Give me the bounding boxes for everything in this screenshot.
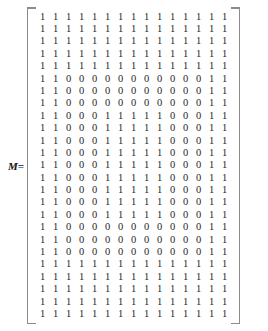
- matrix-cell: 1: [114, 184, 127, 196]
- matrix-cell: 0: [114, 97, 127, 109]
- matrix-cell: 0: [153, 234, 166, 246]
- matrix-cell: 1: [114, 60, 127, 72]
- matrix-cell: 1: [140, 209, 153, 221]
- matrix-cell: 1: [205, 271, 218, 283]
- matrix-cell: 0: [140, 97, 153, 109]
- matrix-cell: 1: [166, 296, 179, 308]
- matrix-cell: 1: [88, 283, 101, 295]
- matrix-cell: 1: [49, 308, 62, 320]
- matrix-cell: 0: [75, 196, 88, 208]
- matrix-cell: 1: [205, 209, 218, 221]
- matrix-cell: 1: [127, 283, 140, 295]
- matrix-cell: 0: [192, 209, 205, 221]
- matrix-cell: 1: [49, 122, 62, 134]
- matrix-row: 111111111111111: [36, 48, 231, 60]
- matrix-cell: 0: [88, 97, 101, 109]
- matrix-cell: 1: [101, 35, 114, 47]
- matrix-cell: 1: [153, 296, 166, 308]
- matrix-cell: 1: [218, 147, 231, 159]
- matrix-cell: 1: [49, 11, 62, 23]
- matrix-cell: 0: [75, 110, 88, 122]
- matrix-cell: 0: [75, 159, 88, 171]
- matrix-cell: 1: [101, 159, 114, 171]
- matrix-cell: 1: [36, 271, 49, 283]
- matrix-cell: 1: [49, 283, 62, 295]
- matrix-cell: 1: [127, 11, 140, 23]
- matrix-cell: 0: [62, 246, 75, 258]
- matrix-cell: 1: [153, 11, 166, 23]
- matrix-cell: 1: [205, 35, 218, 47]
- matrix-cell: 0: [88, 184, 101, 196]
- matrix-cell: 1: [75, 283, 88, 295]
- matrix-cell: 1: [179, 308, 192, 320]
- matrix-cell: 1: [49, 184, 62, 196]
- matrix-cell: 1: [179, 60, 192, 72]
- matrix-grid: 1111111111111111111111111111111111111111…: [36, 7, 231, 325]
- matrix-cell: 1: [75, 11, 88, 23]
- matrix-row: 110001111100011: [36, 110, 231, 122]
- matrix-cell: 0: [153, 97, 166, 109]
- matrix-cell: 1: [127, 60, 140, 72]
- matrix-cell: 1: [101, 196, 114, 208]
- matrix-cell: 1: [36, 135, 49, 147]
- matrix-cell: 0: [140, 221, 153, 233]
- matrix-cell: 0: [192, 135, 205, 147]
- matrix-cell: 1: [88, 308, 101, 320]
- matrix-cell: 1: [153, 271, 166, 283]
- matrix-cell: 0: [62, 234, 75, 246]
- matrix-cell: 1: [153, 184, 166, 196]
- matrix-cell: 1: [140, 271, 153, 283]
- matrix-cell: 0: [140, 234, 153, 246]
- matrix-cell: 0: [88, 196, 101, 208]
- matrix-cell: 1: [166, 308, 179, 320]
- matrix-cell: 1: [179, 11, 192, 23]
- matrix-cell: 1: [127, 147, 140, 159]
- matrix-cell: 1: [140, 135, 153, 147]
- matrix-cell: 1: [205, 172, 218, 184]
- matrix-cell: 0: [88, 209, 101, 221]
- matrix-cell: 0: [88, 110, 101, 122]
- matrix-cell: 0: [75, 184, 88, 196]
- matrix-cell: 1: [166, 48, 179, 60]
- matrix-cell: 1: [36, 283, 49, 295]
- matrix-cell: 0: [75, 73, 88, 85]
- matrix-cell: 1: [49, 60, 62, 72]
- matrix-cell: 1: [36, 147, 49, 159]
- matrix-cell: 1: [36, 35, 49, 47]
- matrix-cell: 1: [127, 110, 140, 122]
- matrix-cell: 0: [88, 122, 101, 134]
- matrix-cell: 0: [62, 159, 75, 171]
- matrix-cell: 1: [114, 283, 127, 295]
- matrix-cell: 1: [101, 172, 114, 184]
- matrix-cell: 1: [153, 147, 166, 159]
- matrix-cell: 1: [205, 147, 218, 159]
- matrix-cell: 1: [75, 35, 88, 47]
- matrix-cell: 1: [62, 60, 75, 72]
- matrix-cell: 1: [49, 73, 62, 85]
- matrix-cell: 1: [62, 48, 75, 60]
- matrix-cell: 0: [114, 85, 127, 97]
- matrix-cell: 1: [62, 23, 75, 35]
- matrix-cell: 1: [36, 159, 49, 171]
- matrix-cell: 0: [166, 196, 179, 208]
- matrix-cell: 1: [140, 159, 153, 171]
- matrix-cell: 1: [114, 11, 127, 23]
- matrix-cell: 1: [218, 11, 231, 23]
- matrix-cell: 1: [166, 35, 179, 47]
- matrix-cell: 1: [140, 35, 153, 47]
- matrix-cell: 1: [205, 135, 218, 147]
- matrix-cell: 1: [127, 196, 140, 208]
- matrix-bracketed-container: 1111111111111111111111111111111111111111…: [27, 7, 240, 325]
- matrix-cell: 0: [179, 209, 192, 221]
- matrix-row: 111111111111111: [36, 23, 231, 35]
- matrix-cell: 1: [140, 110, 153, 122]
- matrix-cell: 0: [62, 135, 75, 147]
- matrix-cell: 1: [36, 308, 49, 320]
- matrix-cell: 0: [192, 85, 205, 97]
- matrix-cell: 1: [205, 110, 218, 122]
- matrix-cell: 0: [166, 246, 179, 258]
- matrix-cell: 1: [114, 296, 127, 308]
- matrix-cell: 1: [88, 23, 101, 35]
- matrix-cell: 0: [179, 147, 192, 159]
- matrix-row: 110001111100011: [36, 196, 231, 208]
